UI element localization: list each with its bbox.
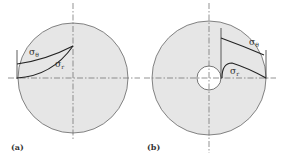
panel-a: σθ σr (a) xyxy=(8,3,140,152)
stress-diagram: σθ σr (a) σθ σr (b) xyxy=(0,0,284,160)
hoop-stress-label: σθ xyxy=(249,37,259,48)
panel-label-a: (a) xyxy=(11,142,24,152)
panel-b: σθ σr (b) xyxy=(144,3,276,153)
panel-label-b: (b) xyxy=(147,142,160,152)
